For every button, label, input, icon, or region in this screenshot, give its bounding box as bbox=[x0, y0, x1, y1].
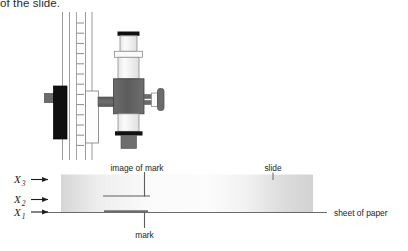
x2-subscript: 2 bbox=[22, 199, 26, 208]
white-slider-block bbox=[86, 91, 99, 143]
draw-tube bbox=[118, 57, 139, 79]
focus-knob-disc bbox=[158, 89, 165, 111]
figure-root: of the slide. bbox=[0, 0, 408, 251]
microscope-body-block bbox=[114, 79, 145, 114]
glass-slide bbox=[61, 175, 313, 213]
x3-subscript: 3 bbox=[21, 179, 26, 188]
eyepiece-tube bbox=[120, 36, 137, 52]
objective-lens bbox=[121, 136, 137, 149]
microscope-tube bbox=[114, 32, 145, 149]
sheet-of-paper-label: sheet of paper bbox=[334, 208, 388, 218]
focus-knob bbox=[144, 89, 164, 111]
x1-symbol: X bbox=[13, 206, 22, 218]
image-of-mark-label: image of mark bbox=[110, 163, 164, 173]
scale-tick-marks bbox=[77, 23, 85, 145]
eyepiece-cap bbox=[118, 32, 140, 36]
x2-symbol: X bbox=[13, 193, 22, 205]
measurement-arrows bbox=[31, 180, 48, 213]
lower-tube bbox=[118, 114, 139, 132]
mark-label: mark bbox=[135, 230, 154, 240]
objective-band bbox=[115, 131, 143, 135]
eyepiece-collar bbox=[115, 51, 143, 57]
slide-label: slide bbox=[264, 163, 282, 173]
x3-symbol: X bbox=[13, 173, 22, 185]
black-counterweight-block bbox=[45, 86, 68, 139]
x1-subscript: 1 bbox=[22, 212, 26, 221]
x3-label: X 3 bbox=[13, 173, 26, 188]
microscope-slide-diagram: X 3 X 2 X 1 image of mark slide mark she… bbox=[0, 0, 408, 251]
